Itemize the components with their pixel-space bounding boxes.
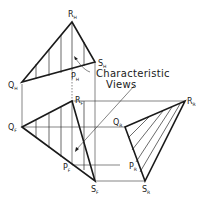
label-rf: RF: [75, 96, 84, 106]
arrowhead-top: [74, 56, 78, 60]
label-qh: QH: [8, 81, 18, 91]
diagram-svg: RH QH SH PH RF QF SF PF RR QR SR PR Char…: [0, 0, 207, 201]
annotation-characteristic: Characteristic: [96, 68, 170, 79]
label-pf: PF: [63, 163, 71, 173]
leader-to-front-view: [76, 85, 135, 150]
projection-lines: [22, 62, 185, 181]
label-sf: SF: [91, 185, 99, 195]
top-view: [22, 22, 95, 82]
label-rr: RR: [187, 97, 196, 107]
vertex-labels: RH QH SH PH RF QF SF PF RR QR SR PR: [8, 10, 196, 195]
label-sr: SR: [142, 185, 150, 195]
label-pr: PR: [129, 162, 137, 172]
label-qf: QF: [8, 123, 17, 133]
label-ph: PH: [71, 72, 79, 82]
label-qr: QR: [113, 118, 122, 128]
annotation-views: Views: [106, 79, 136, 90]
label-rh: RH: [68, 10, 77, 20]
orthographic-projection-diagram: RH QH SH PH RF QF SF PF RR QR SR PR Char…: [0, 0, 207, 201]
